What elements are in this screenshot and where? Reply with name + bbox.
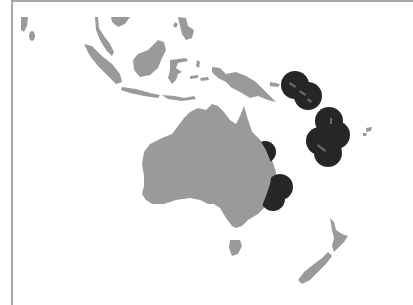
land-lesser-sunda xyxy=(162,95,196,101)
land-sulawesi xyxy=(168,58,188,84)
map-canvas[interactable] xyxy=(0,0,413,305)
land-indochina xyxy=(111,17,130,27)
land-india-tip xyxy=(21,17,28,32)
land-borneo xyxy=(133,40,166,77)
marker-new-caledonia-2 xyxy=(314,139,342,167)
land-nz-south xyxy=(298,252,332,284)
land-malay-peninsula xyxy=(95,17,114,56)
land-philippines xyxy=(178,17,194,40)
map-frame xyxy=(0,0,413,305)
marker-solomon-2 xyxy=(294,82,322,110)
land-sri-lanka xyxy=(29,31,35,41)
land-tasmania xyxy=(229,240,242,256)
land-moluccas xyxy=(196,60,200,68)
land-new-guinea xyxy=(212,67,276,102)
land-sumatra xyxy=(84,44,122,84)
land-fiji xyxy=(366,127,372,132)
land-java xyxy=(121,87,160,98)
land-nz-north xyxy=(330,218,348,252)
